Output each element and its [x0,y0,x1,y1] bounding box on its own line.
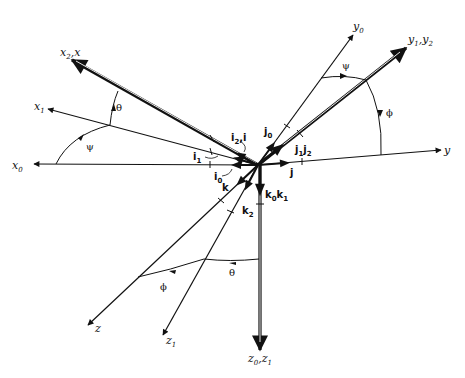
angle-arc-theta-bottom [204,259,259,265]
label-psi-right: ψ [342,60,350,71]
label-y1-y2: y1,y2 [407,33,433,48]
label-k2: k2 [242,205,254,219]
label-i2-i: i2,i [231,132,247,146]
label-z1: z1 [165,334,176,349]
label-y0: y0 [352,20,364,35]
label-k: k [222,182,229,193]
label-psi-left: ψ [86,141,94,152]
label-x1: x1 [34,100,45,115]
label-y: y [443,144,451,157]
angle-arc-phi-right [366,80,383,155]
label-x0: x0 [12,159,23,174]
axis-y [258,150,441,165]
axis-z0-z1 [256,165,264,350]
label-i1: i1 [193,151,201,165]
label-j: j [289,167,293,178]
euler-angle-diagram: x0 x1 x2,x y0 y1,y2 y z z1 z0,z1 i0 i1 i… [0,0,465,378]
label-theta-left: θ [116,102,122,113]
label-phi-bottom: ϕ [160,281,167,292]
axis-z1 [163,165,258,335]
label-z0-z1: z0,z1 [247,352,272,367]
label-z: z [94,322,101,335]
label-x2-x: x2,x [60,46,81,61]
axis-z [88,165,258,325]
label-phi-right: ϕ [386,107,393,118]
label-j0: j0 [263,126,272,140]
angle-arc-psi-left [56,125,110,164]
axis-x0 [34,161,258,168]
axis-x2-x [72,60,258,165]
angle-arc-psi-right [321,73,366,80]
axis-y1-y2 [258,48,406,165]
unit-vector-arrows [236,146,285,190]
label-theta-bottom: θ [229,267,235,278]
label-k0-k1: k0k1 [265,189,288,203]
label-j1-j2: j1j2 [294,144,312,158]
